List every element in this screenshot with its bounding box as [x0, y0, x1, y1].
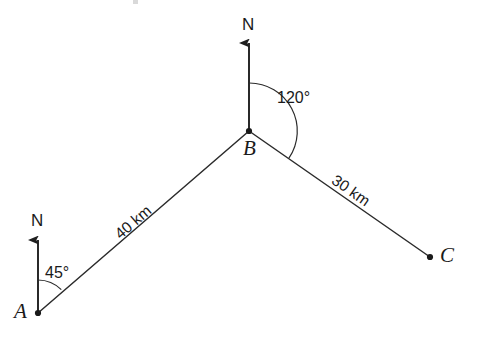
- north-label-at-a: N: [31, 212, 43, 229]
- top-edge-artifact: [133, 0, 138, 4]
- angle-label-45: 45°: [45, 265, 69, 281]
- point-label-c: C: [440, 245, 454, 266]
- diagram-canvas: A B C N N 45° 120° 40 km 30 km: [0, 0, 484, 343]
- point-label-a: A: [14, 301, 27, 322]
- diagram-vector-layer: [0, 0, 484, 343]
- point-marker-a: [35, 310, 41, 316]
- point-marker-c: [427, 254, 433, 260]
- segment-bc: [249, 131, 430, 257]
- north-label-at-b: N: [242, 16, 254, 33]
- point-marker-b: [246, 128, 252, 134]
- point-label-b: B: [243, 138, 256, 159]
- angle-label-120: 120°: [277, 90, 310, 106]
- angle-arc-45: [38, 280, 61, 290]
